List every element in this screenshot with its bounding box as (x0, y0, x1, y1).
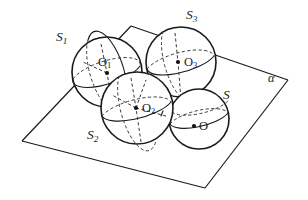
label-center-O1: O1 (98, 56, 111, 70)
label-center-O: O (199, 120, 208, 134)
label-sphere-S2: S2 (87, 128, 98, 144)
plane-edge-front-left (22, 141, 205, 188)
label-center-O2: O2 (142, 102, 155, 116)
geometry-canvas (0, 0, 308, 200)
label-sphere-S1: S1 (56, 30, 67, 46)
sphere-S2 (101, 72, 173, 151)
sphere-S2-center-dot (134, 106, 138, 110)
sphere-S1-center-dot (105, 71, 109, 75)
label-sphere-S: S (223, 88, 230, 104)
label-sphere-S3: S3 (186, 8, 197, 24)
sphere-S3-center-dot (176, 60, 180, 64)
geometry-figure: S1 S3 S2 S O1 O3 O2 O α (0, 0, 308, 200)
label-center-O3: O3 (184, 56, 197, 70)
sphere-S-center-dot (192, 124, 196, 128)
label-plane-alpha: α (268, 72, 275, 85)
